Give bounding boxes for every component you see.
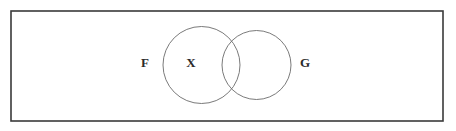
element-label-x: X: [186, 55, 196, 70]
universal-set-rectangle: [11, 11, 443, 121]
venn-diagram-canvas: F X G: [0, 0, 456, 131]
set-g-circle: [222, 31, 291, 100]
set-label-g: G: [300, 55, 310, 70]
set-f-circle: [163, 27, 240, 104]
set-label-f: F: [141, 55, 149, 70]
venn-diagram-figure: F X G: [0, 0, 456, 131]
